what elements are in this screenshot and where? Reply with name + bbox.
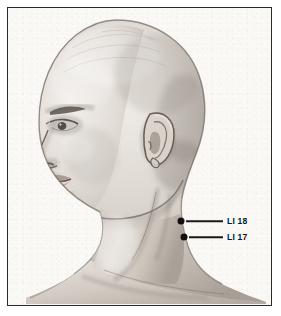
leader-line-li-18: [186, 220, 223, 222]
acupoint-label-li-17[interactable]: LI 17: [227, 232, 247, 242]
illustration-frame: LI 18 LI 17: [7, 7, 272, 306]
acupoint-dot-li-17[interactable]: [181, 234, 188, 241]
acupoint-dot-li-18[interactable]: [178, 218, 185, 225]
leader-line-li-17: [189, 236, 223, 238]
figure-root: LI 18 LI 17: [0, 0, 281, 316]
acupoint-label-li-18[interactable]: LI 18: [227, 216, 247, 226]
head-profile-illustration: [8, 8, 270, 304]
